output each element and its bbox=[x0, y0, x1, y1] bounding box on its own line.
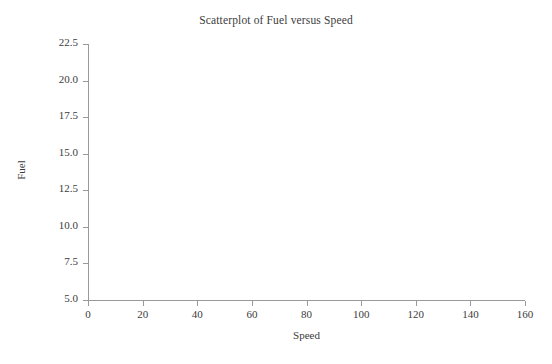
x-tick-mark bbox=[525, 301, 526, 306]
x-tick-label: 0 bbox=[58, 308, 118, 320]
y-tick-mark bbox=[83, 190, 88, 191]
plot-area bbox=[88, 44, 525, 300]
scatterplot-figure: Scatterplot of Fuel versus Speed 0204060… bbox=[0, 0, 552, 364]
x-tick-mark bbox=[197, 301, 198, 306]
y-tick-label: 17.5 bbox=[10, 109, 78, 121]
x-tick-mark bbox=[307, 301, 308, 306]
x-tick-mark bbox=[416, 301, 417, 306]
y-tick-label: 7.5 bbox=[10, 255, 78, 267]
x-tick-label: 20 bbox=[113, 308, 173, 320]
y-tick-mark bbox=[83, 81, 88, 82]
y-axis-title: Fuel bbox=[15, 135, 27, 205]
x-tick-mark bbox=[143, 301, 144, 306]
x-tick-label: 140 bbox=[440, 308, 500, 320]
x-tick-mark bbox=[252, 301, 253, 306]
x-axis-title: Speed bbox=[88, 329, 525, 341]
y-axis-line bbox=[88, 44, 89, 301]
y-tick-label: 20.0 bbox=[10, 73, 78, 85]
y-tick-label: 10.0 bbox=[10, 219, 78, 231]
x-tick-mark bbox=[88, 301, 89, 306]
x-tick-mark bbox=[361, 301, 362, 306]
y-tick-label: 5.0 bbox=[10, 292, 78, 304]
x-tick-label: 60 bbox=[222, 308, 282, 320]
x-tick-label: 80 bbox=[277, 308, 337, 320]
x-tick-label: 120 bbox=[386, 308, 446, 320]
y-tick-mark bbox=[83, 117, 88, 118]
y-tick-mark bbox=[83, 154, 88, 155]
y-tick-mark bbox=[83, 263, 88, 264]
chart-title: Scatterplot of Fuel versus Speed bbox=[0, 14, 552, 26]
x-tick-label: 40 bbox=[167, 308, 227, 320]
x-tick-mark bbox=[470, 301, 471, 306]
x-tick-label: 100 bbox=[331, 308, 391, 320]
y-tick-label: 22.5 bbox=[10, 36, 78, 48]
y-tick-mark bbox=[83, 44, 88, 45]
y-tick-mark bbox=[83, 300, 88, 301]
x-tick-label: 160 bbox=[495, 308, 552, 320]
y-tick-mark bbox=[83, 227, 88, 228]
